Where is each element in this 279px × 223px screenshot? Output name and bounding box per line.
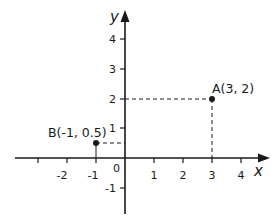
x-axis-label: x bbox=[253, 162, 263, 180]
point-a-marker bbox=[209, 96, 215, 102]
point-b-label: B(-1, 0.5) bbox=[48, 125, 107, 140]
point-b-guides bbox=[96, 143, 125, 158]
x-tick-label: 2 bbox=[180, 169, 187, 182]
x-axis: x bbox=[15, 154, 270, 181]
x-tick-label: -1 bbox=[88, 169, 99, 182]
point-a-guides bbox=[125, 99, 212, 158]
x-tick-label: 3 bbox=[209, 169, 216, 182]
x-tick-labels: -2 -1 1 2 3 4 bbox=[57, 169, 245, 182]
x-tick-label: -2 bbox=[57, 169, 68, 182]
point-a-label: A(3, 2) bbox=[212, 81, 254, 96]
y-tick-label: -1 bbox=[105, 182, 116, 195]
y-tick-label: 2 bbox=[109, 93, 116, 106]
y-tick-label: 1 bbox=[109, 122, 116, 135]
x-tick-label: 4 bbox=[238, 169, 245, 182]
y-tick-label: 3 bbox=[109, 63, 116, 76]
origin-label: 0 bbox=[113, 162, 120, 175]
coordinate-plane: x y 0 -2 -1 1 2 3 4 4 3 2 1 -1 bbox=[0, 0, 279, 223]
x-tick-label: 1 bbox=[151, 169, 158, 182]
y-axis-label: y bbox=[109, 8, 120, 26]
point-b-marker bbox=[93, 140, 99, 146]
y-axis-arrow-icon bbox=[121, 10, 130, 22]
y-tick-label: 4 bbox=[109, 33, 116, 46]
